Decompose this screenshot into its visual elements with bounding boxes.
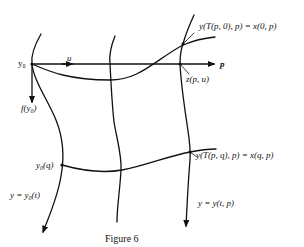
label-mid-right-equation: y(T(p, q), p) = x(q, p) <box>196 150 274 160</box>
label-y0q: y0(q) <box>36 160 54 173</box>
y0-point <box>30 62 33 65</box>
right-trajectory-curve <box>180 15 194 226</box>
figure-caption: Figure 6 <box>105 233 139 244</box>
label-y0: y0 <box>18 58 26 71</box>
z-pu-leader <box>180 64 189 74</box>
label-left-curve: y = y0(t) <box>10 190 40 203</box>
lower-transversal-curve <box>62 149 216 172</box>
y0q-point <box>60 163 63 166</box>
label-right-curve: y = y(t, p) <box>198 198 234 208</box>
label-u: u <box>67 53 72 63</box>
label-top-right-equation: y(T(p, 0), p) = x(0, p) <box>199 21 277 31</box>
z-pu-point <box>178 62 181 65</box>
top-intersection-point <box>181 42 184 45</box>
label-f-y0: f(y0) <box>21 103 37 116</box>
mid-intersection-point <box>188 150 191 153</box>
figure-6-diagram: y0 u p f(y0) y(T(p, 0), p) = x(0, p) z(p… <box>0 0 304 247</box>
label-p: p <box>220 59 225 69</box>
diagram-curves <box>0 0 304 247</box>
label-z-pu: z(p, u) <box>186 74 209 84</box>
